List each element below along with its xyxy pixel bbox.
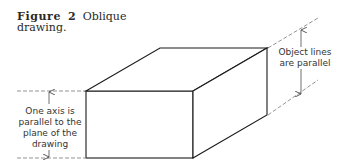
lower-oblique-extension (268, 80, 318, 115)
oblique-box (86, 48, 267, 158)
upper-oblique-extension (268, 18, 318, 48)
left-annotation: One axis is parallel to the plane of the… (18, 106, 82, 150)
right-annotation: Object lines are parallel (270, 47, 340, 69)
front-face (86, 91, 193, 158)
